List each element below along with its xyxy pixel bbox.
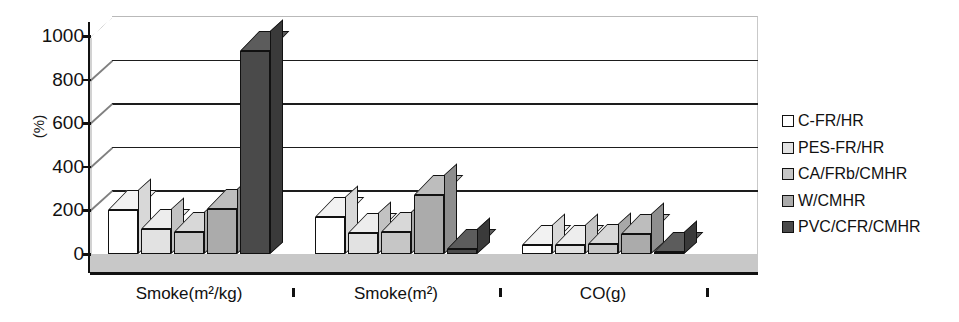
legend-item: C-FR/HR (782, 108, 958, 135)
y-tick-mark (83, 253, 91, 256)
y-tick-mark (83, 79, 91, 82)
bar-front-face (174, 232, 204, 254)
bar-front-face (621, 234, 651, 254)
bar-front-face (414, 195, 444, 254)
legend-swatch-icon (782, 115, 794, 127)
bar (588, 244, 618, 254)
bar (621, 234, 651, 254)
bar-front-face (447, 249, 477, 254)
y-tick-label: 600 (22, 113, 84, 132)
gridline (112, 60, 758, 62)
bar-front-face (108, 210, 138, 254)
x-tick-mark (499, 288, 502, 297)
plot-left-wall-top (90, 16, 114, 38)
y-tick-mark (83, 122, 91, 125)
x-tick-mark (706, 288, 709, 297)
bar-front-face (381, 232, 411, 254)
y-tick-mark (83, 209, 91, 212)
chart-legend: C-FR/HRPES-FR/HRCA/FRb/CMHRW/CMHRPVC/CFR… (782, 108, 958, 241)
plot-area (90, 16, 758, 274)
gridline (112, 103, 758, 105)
x-tick-mark (292, 288, 295, 297)
y-tick-mark (83, 35, 91, 38)
legend-item: CA/FRb/CMHR (782, 161, 958, 188)
bar (174, 232, 204, 254)
legend-item: W/CMHR (782, 188, 958, 215)
bar (240, 51, 270, 254)
bar (555, 245, 585, 254)
y-tick-label: 0 (22, 244, 84, 263)
bar-side-face (270, 19, 283, 254)
bar-front-face (207, 209, 237, 254)
bar-chart: (%) 10008006004002000 Smoke(m²/kg)Smoke(… (0, 0, 959, 322)
bar-front-face (555, 245, 585, 254)
x-category-label: CO(g) (503, 284, 703, 304)
bar (348, 233, 378, 254)
bar (522, 245, 552, 254)
legend-item: PES-FR/HR (782, 135, 958, 162)
bar (207, 209, 237, 254)
legend-swatch-icon (782, 168, 794, 180)
bar (141, 229, 171, 254)
x-category-label: Smoke(m²) (296, 284, 496, 304)
legend-label: C-FR/HR (798, 113, 864, 129)
legend-swatch-icon (782, 195, 794, 207)
y-tick-label: 800 (22, 70, 84, 89)
legend-item: PVC/CFR/CMHR (782, 214, 958, 241)
bar-front-face (654, 252, 684, 254)
legend-label: CA/FRb/CMHR (798, 166, 907, 182)
y-tick-label: 200 (22, 200, 84, 219)
bar (108, 210, 138, 254)
legend-label: PES-FR/HR (798, 140, 884, 156)
y-axis-tick-labels: 10008006004002000 (20, 0, 84, 322)
bar-front-face (315, 217, 345, 254)
bar-front-face (588, 244, 618, 254)
legend-label: PVC/CFR/CMHR (798, 219, 921, 235)
x-axis-line (90, 272, 758, 275)
bar-front-face (240, 51, 270, 254)
bar (654, 252, 684, 254)
bar (315, 217, 345, 254)
bar (414, 195, 444, 254)
y-tick-label: 400 (22, 157, 84, 176)
bar-front-face (348, 233, 378, 254)
legend-label: W/CMHR (798, 193, 866, 209)
legend-swatch-icon (782, 221, 794, 233)
y-tick-mark (83, 166, 91, 169)
y-tick-label: 1000 (22, 26, 84, 45)
legend-swatch-icon (782, 142, 794, 154)
bar (381, 232, 411, 254)
gridline (112, 147, 758, 149)
bar-front-face (522, 245, 552, 254)
bar (447, 249, 477, 254)
x-category-label: Smoke(m²/kg) (89, 284, 289, 304)
bar-front-face (141, 229, 171, 254)
plot-floor (90, 254, 758, 274)
